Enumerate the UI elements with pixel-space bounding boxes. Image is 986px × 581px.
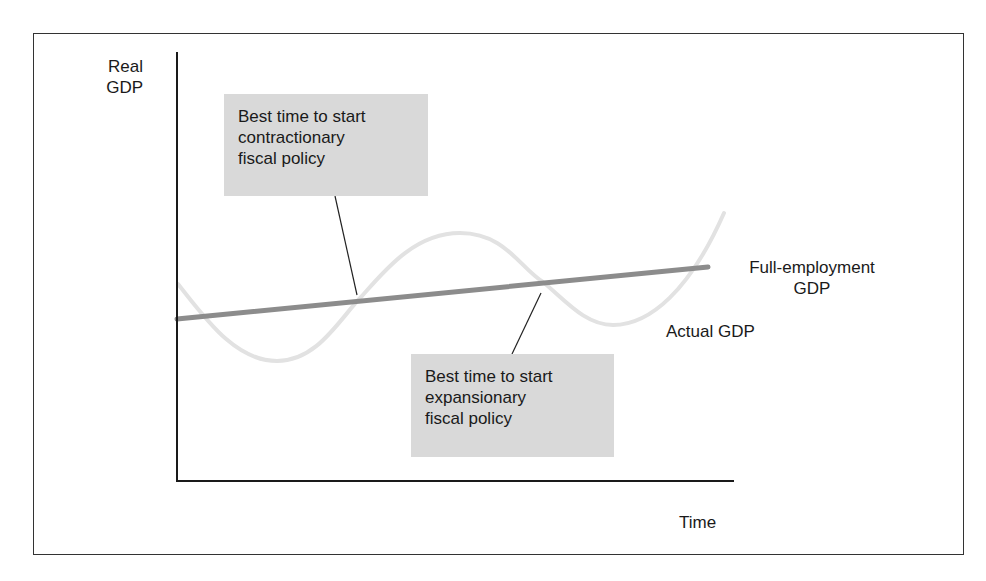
actual-gdp-label: Actual GDP [666, 321, 755, 342]
y-axis-label-line1: Real [88, 56, 143, 77]
expansionary-policy-callout: Best time to start expansionary fiscal p… [411, 354, 614, 457]
y-axis-label-line2: GDP [88, 77, 143, 98]
callout-line: Best time to start [238, 106, 414, 127]
y-axis-label: Real GDP [88, 56, 143, 98]
full-employment-gdp-line [177, 267, 708, 319]
callout-line: fiscal policy [425, 408, 600, 429]
full-employment-label-line2: GDP [712, 278, 912, 299]
callout-line: expansionary [425, 387, 600, 408]
callout-line: Best time to start [425, 366, 600, 387]
x-axis-label: Time [679, 512, 716, 533]
callout-line: fiscal policy [238, 148, 414, 169]
contractionary-leader-line [335, 196, 357, 295]
full-employment-label-line1: Full-employment [712, 257, 912, 278]
expansionary-leader-line [512, 293, 541, 354]
actual-gdp-curve [178, 213, 724, 361]
callout-line: contractionary [238, 127, 414, 148]
contractionary-policy-callout: Best time to start contractionary fiscal… [224, 94, 428, 196]
full-employment-gdp-label: Full-employment GDP [712, 257, 912, 299]
